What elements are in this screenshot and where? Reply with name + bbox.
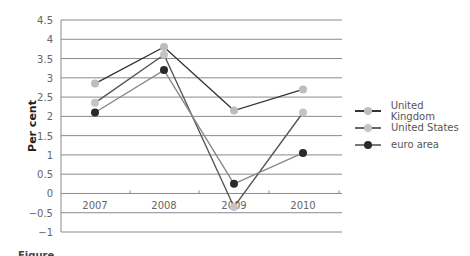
legend-marker-icon [355,140,381,150]
data-point-marker [230,180,238,188]
y-tick-label: 0 [47,188,53,199]
legend-label: euro area [391,139,439,150]
legend-label: United States [391,122,459,133]
data-point-marker [230,107,238,115]
x-tick-label: 2010 [290,200,315,211]
y-tick-label: 4.5 [37,15,53,26]
y-tick-label: 1 [47,150,53,161]
legend-marker-icon [355,106,381,116]
legend-label: United Kingdom [391,100,470,122]
x-tick-label: 2007 [82,200,107,211]
y-tick-label: 2.5 [37,92,53,103]
data-point-marker [160,43,168,51]
y-tick-label: −0.5 [29,208,53,219]
y-tick-label: 0.5 [37,169,53,180]
data-series [91,43,307,211]
data-point-marker [299,149,307,157]
legend: United Kingdom United States euro area [355,102,470,153]
y-tick-label: 3 [47,73,53,84]
legend-item-euro-area: euro area [355,136,470,153]
y-tick-label: 2 [47,111,53,122]
data-point-marker [91,99,99,107]
y-tick-label: 3.5 [37,54,53,65]
x-tick-label: 2008 [151,200,176,211]
y-tick-label: −1 [38,227,53,238]
data-point-marker [91,109,99,117]
data-point-marker [230,203,238,211]
y-axis-label: Per cent [26,100,39,152]
data-point-marker [299,109,307,117]
legend-marker-icon [355,123,381,133]
data-point-marker [91,80,99,88]
figure-caption: Figure [18,248,54,256]
y-tick-label: 1.5 [37,131,53,142]
data-point-marker [160,66,168,74]
legend-item-united-kingdom: United Kingdom [355,102,470,119]
data-point-marker [299,85,307,93]
x-axis-ticks: 2007200820092010 [82,200,315,211]
data-point-marker [160,51,168,59]
legend-item-united-states: United States [355,119,470,136]
y-tick-label: 4 [47,34,53,45]
